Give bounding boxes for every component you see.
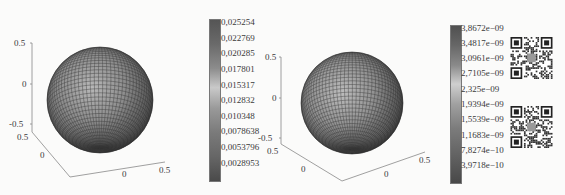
colorbar-tick: 0,0053796 <box>221 143 259 152</box>
colorbar-tick: 0,020285 <box>221 49 255 58</box>
colorbar-tick: 2,325e−09 <box>461 85 499 94</box>
plot1-z-tick: -0.5 <box>9 120 23 129</box>
plot2-z-tick: 0 <box>272 94 277 103</box>
plot2-x-tick: 0 <box>384 170 389 179</box>
colorbar-tick: 3,8672e−09 <box>461 24 504 33</box>
plot1-z-tick: 0.5 <box>14 39 25 48</box>
colorbar-tick: 3,9718e−10 <box>461 161 504 170</box>
colorbar-tick: 0,022769 <box>221 34 255 43</box>
plot1-x-tick: 0.5 <box>159 166 170 175</box>
plot2-y-tick: 0.5 <box>267 147 278 156</box>
plot2-x-tick: 0.5 <box>419 156 430 165</box>
plot1-x-tick: 0 <box>122 170 127 179</box>
plot2-z-tick: -0.5 <box>258 134 272 143</box>
colorbar-tick: 3,4817e−09 <box>461 39 504 48</box>
plot2-z-tick: 0.5 <box>265 53 276 62</box>
colorbar-tick: 1,1683e−09 <box>461 131 504 140</box>
plot2-y-tick: 0 <box>301 165 306 174</box>
qr-code-1 <box>510 37 553 79</box>
colorbar-tick: 0,015317 <box>221 81 255 90</box>
colorbar-tick: 0,010348 <box>221 112 255 121</box>
colorbar-tick: 0,025254 <box>221 18 255 27</box>
plot2-sphere <box>301 52 403 154</box>
qr-code-2 <box>510 106 553 148</box>
colorbar-tick: 0,012832 <box>221 96 255 105</box>
colorbar-tick: 1,5539e−09 <box>461 115 504 124</box>
plot1-y-tick: 0 <box>40 151 45 160</box>
colorbar-tick: 2,7105e−09 <box>461 69 504 78</box>
plot1-sphere <box>47 47 153 153</box>
colorbar-tick: 0,0028953 <box>221 159 259 168</box>
colorbar-tick: 3,0961e−09 <box>461 54 504 63</box>
colorbar-tick: 7,8274e−10 <box>461 146 504 155</box>
plot1-z-tick: 0 <box>22 80 27 89</box>
colorbar-tick: 1,9394e−09 <box>461 100 504 109</box>
plot1-colorbar <box>209 19 221 182</box>
colorbar-tick: 0,0078638 <box>221 127 259 136</box>
colorbar-tick: 0,017801 <box>221 65 255 74</box>
plot1-y-tick: 0.5 <box>17 133 28 142</box>
